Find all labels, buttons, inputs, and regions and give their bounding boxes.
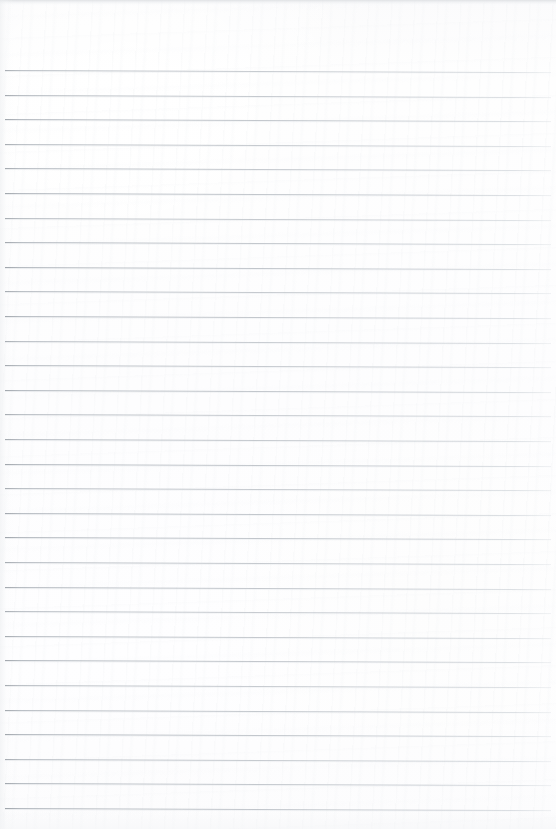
- paper-background: [0, 0, 556, 829]
- scanned-page: [0, 0, 556, 829]
